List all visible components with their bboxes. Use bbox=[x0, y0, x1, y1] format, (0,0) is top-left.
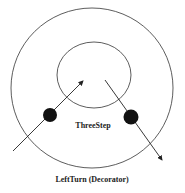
outer-label: LeftTurn (Decorator) bbox=[55, 175, 129, 184]
entry-dot bbox=[43, 108, 57, 122]
outer-circle-lefturn bbox=[11, 8, 173, 168]
exit-dot bbox=[124, 110, 139, 125]
decorator-diagram: ThreeStep LeftTurn (Decorator) bbox=[0, 0, 185, 193]
inner-label: ThreeStep bbox=[75, 121, 111, 130]
inner-circle-threestep bbox=[57, 42, 131, 108]
